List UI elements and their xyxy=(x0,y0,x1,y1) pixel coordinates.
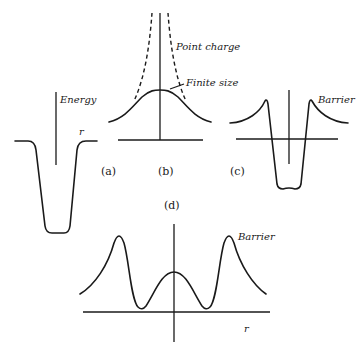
panel-b-finite-size-label: Finite size xyxy=(185,77,238,88)
panel-b-point-charge-right xyxy=(168,13,186,101)
panel-c: Barrier (c) xyxy=(230,90,356,189)
panel-d-r-label: r xyxy=(244,323,250,334)
panel-b-label: (b) xyxy=(158,165,174,178)
panel-d: (d) Barrier r xyxy=(80,199,276,342)
panel-c-label: (c) xyxy=(230,165,245,178)
panel-a-energy-label: Energy xyxy=(59,94,97,105)
potential-diagram: Energy r (a) Point charge Finite size (b… xyxy=(0,0,361,354)
panel-d-label: (d) xyxy=(164,199,180,212)
panel-b-point-charge-label: Point charge xyxy=(175,41,240,52)
panel-c-barrier-label: Barrier xyxy=(317,94,356,105)
panel-a-r-label: r xyxy=(79,126,85,137)
panel-d-double-barrier-curve xyxy=(80,236,266,309)
panel-b-point-charge-left xyxy=(134,13,152,101)
panel-b-finite-size-pointer xyxy=(170,84,184,89)
panel-b: Point charge Finite size (b) xyxy=(109,13,240,178)
panel-a-label: (a) xyxy=(101,165,116,178)
panel-a: Energy r (a) xyxy=(15,92,116,233)
panel-d-barrier-label: Barrier xyxy=(237,231,276,242)
